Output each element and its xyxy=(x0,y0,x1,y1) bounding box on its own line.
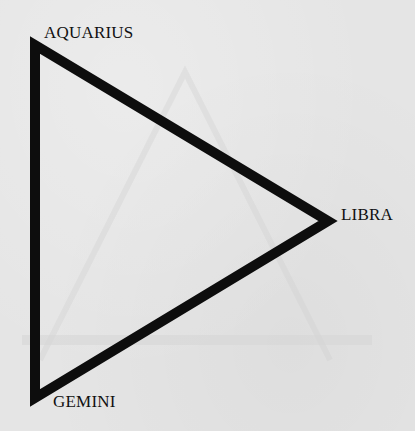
ghost-bar xyxy=(22,335,372,345)
vertex-label-gemini: GEMINI xyxy=(53,393,116,410)
vertex-label-libra: LIBRA xyxy=(341,206,393,223)
ghost-triangle-icon xyxy=(40,72,330,360)
diagram-canvas: AQUARIUS LIBRA GEMINI xyxy=(0,0,415,431)
vertex-label-aquarius: AQUARIUS xyxy=(44,24,133,41)
triangle-shape xyxy=(35,45,328,398)
